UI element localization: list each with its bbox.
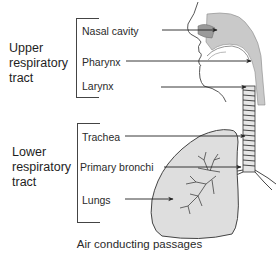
trachea bbox=[243, 86, 255, 172]
diagram-caption: Air conducting passages bbox=[0, 238, 279, 250]
respiratory-anatomy-illustration bbox=[0, 0, 279, 256]
lung bbox=[151, 130, 238, 239]
